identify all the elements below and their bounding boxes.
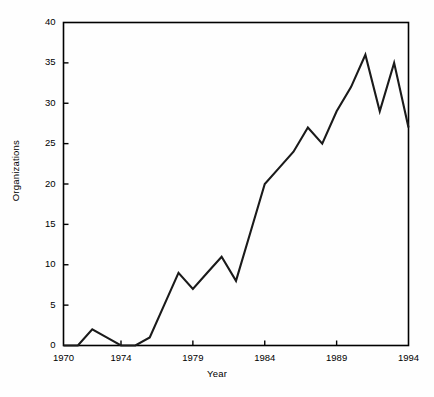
tick-marks <box>64 63 337 346</box>
x-tick-label: 1994 <box>389 352 429 363</box>
x-tick-label: 1984 <box>245 352 285 363</box>
y-tick-label: 35 <box>30 56 56 67</box>
y-tick-label: 5 <box>30 299 56 310</box>
axes-frame <box>64 23 409 346</box>
x-tick-label: 1970 <box>44 352 84 363</box>
y-tick-label: 30 <box>30 97 56 108</box>
y-tick-label: 40 <box>30 16 56 27</box>
series-line-organizations <box>64 55 409 346</box>
chart-figure: Organizations Year 0510152025303540 1970… <box>0 0 434 397</box>
x-tick-label: 1979 <box>173 352 213 363</box>
y-axis-title: Organizations <box>10 140 21 201</box>
x-tick-label: 1989 <box>317 352 357 363</box>
y-tick-label: 15 <box>30 218 56 229</box>
x-tick-label: 1974 <box>101 352 141 363</box>
x-axis-title: Year <box>0 368 434 379</box>
line-chart-plot <box>0 0 434 397</box>
y-tick-label: 25 <box>30 137 56 148</box>
y-tick-label: 10 <box>30 258 56 269</box>
y-tick-label: 0 <box>30 339 56 350</box>
data-line <box>64 55 409 346</box>
y-tick-label: 20 <box>30 178 56 189</box>
